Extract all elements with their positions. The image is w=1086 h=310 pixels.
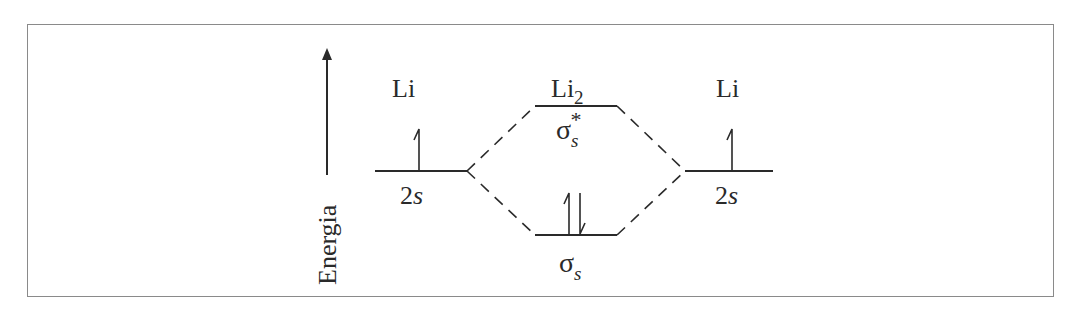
right-2s-label: 2s [715,181,738,210]
right-atom: Li 2s [685,74,773,210]
bonding-label: σs [559,247,582,284]
electron-up-arrow-icon [564,193,569,234]
left-atom-label: Li [392,74,415,103]
left-atom: Li 2s [375,74,467,210]
electron-up-arrow-icon [414,129,419,170]
molecule-label: Li2 [551,74,584,108]
left-2s-label: 2s [400,181,423,210]
left-to-antibonding-dash [467,106,535,171]
electron-up-arrow-icon [727,129,732,170]
antibonding-to-right-dash [617,106,685,171]
energy-axis-label: Energia [313,204,342,285]
electron-down-arrow-icon [580,193,585,234]
mo-diagram: Energia Li 2s Li 2s Li2 σs* σs [0,0,1086,310]
bonding-to-right-dash [617,171,685,235]
energy-axis: Energia [313,48,342,285]
right-atom-label: Li [716,74,739,103]
left-to-bonding-dash [467,171,535,235]
arrow-up-icon [322,48,332,60]
bonding-orbital: σs [535,193,617,284]
antibonding-label: σs* [556,107,582,151]
antibonding-orbital: σs* [535,106,617,151]
